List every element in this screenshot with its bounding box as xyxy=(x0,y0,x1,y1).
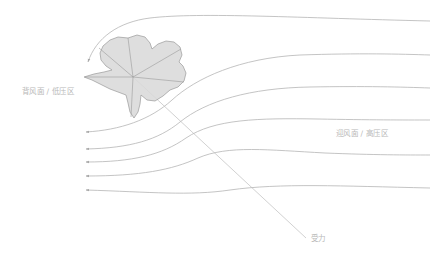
airflow-diagram: 背风面 / 低压区 迎风面 / 高压区 受力 xyxy=(0,0,430,273)
streamline-4 xyxy=(86,119,430,162)
streamline-6 xyxy=(86,186,430,194)
label-force: 受力 xyxy=(311,235,326,243)
label-windward-high-pressure: 迎风面 / 高压区 xyxy=(336,130,388,138)
label-leeward-low-pressure: 背风面 / 低压区 xyxy=(22,88,74,96)
force-leader-line xyxy=(133,77,306,238)
obstacle-body-shape xyxy=(84,35,186,118)
streamline-5 xyxy=(86,150,430,177)
